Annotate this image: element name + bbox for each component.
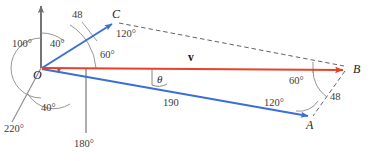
angle-label-120-at-c: 120° [116, 29, 136, 40]
magnitude-label-48-oc: 48 [72, 10, 83, 21]
angle-arc-120-at-a [296, 101, 318, 111]
south-axis-line [41, 68, 86, 133]
theta-label: θ [157, 74, 162, 85]
dashed-line-c-to-b [119, 23, 344, 66]
point-label-C: C [112, 8, 120, 20]
angle-label-40-lower: 40° [41, 103, 56, 114]
vector-oa [42, 69, 308, 116]
magnitude-label-190-oa: 190 [163, 98, 179, 109]
vector-v-ob [42, 68, 343, 70]
angle-arc-60-at-b [313, 70, 327, 97]
vector-label-v: v [188, 52, 194, 64]
bearing-label-180: 180° [74, 139, 94, 150]
magnitude-label-48-ba: 48 [330, 92, 341, 103]
angle-label-100-origin: 100° [12, 39, 32, 50]
angle-label-120-at-a: 120° [264, 98, 284, 109]
angle-label-60-origin: 60° [100, 50, 115, 61]
point-label-B: B [353, 63, 360, 75]
vector-diagram-figure: O C B A 180° 220° 100° 40° 120° 60° 40° … [0, 0, 374, 161]
angle-arc-60-origin [70, 25, 96, 68]
angle-label-40-upper: 40° [50, 39, 65, 50]
bearing-label-220: 220° [4, 124, 24, 135]
diagram-canvas [0, 0, 374, 161]
point-label-A: A [306, 119, 313, 131]
angle-label-60-at-b: 60° [289, 76, 304, 87]
point-label-O: O [33, 69, 42, 81]
